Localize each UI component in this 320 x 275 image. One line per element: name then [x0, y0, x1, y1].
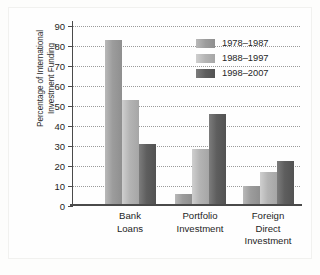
y-tick-label: 0: [60, 201, 65, 212]
y-tick-label: 30: [54, 141, 65, 152]
x-axis-label: ForeignDirectInvestment: [223, 210, 313, 248]
y-tick-label: 10: [54, 181, 65, 192]
y-tick-label: 90: [54, 21, 65, 32]
legend-label: 1988–1997: [222, 53, 269, 63]
legend-swatch: [196, 39, 215, 48]
bar: [209, 114, 226, 206]
x-axis-label-line: Investment: [223, 235, 313, 248]
bar: [122, 100, 139, 206]
legend-swatch: [196, 54, 215, 63]
x-axis-label-line: Foreign: [223, 210, 313, 223]
y-axis-title: Percentage of International Investment F…: [36, 0, 57, 169]
x-axis-line: [70, 204, 302, 206]
legend-swatch: [196, 69, 215, 78]
legend-label: 1998–2007: [222, 68, 269, 78]
y-tick-label: 40: [54, 121, 65, 132]
bar: [139, 144, 156, 206]
legend-item: 1988–1997: [196, 53, 269, 63]
bar: [260, 172, 277, 206]
bar: [243, 186, 260, 206]
y-tick-label: 20: [54, 161, 65, 172]
bar-group: [105, 26, 156, 206]
y-tick-label: 60: [54, 81, 65, 92]
y-tick-label: 70: [54, 61, 65, 72]
y-tick-label: 80: [54, 41, 65, 52]
legend-label: 1978–1987: [222, 38, 269, 48]
bar: [277, 161, 294, 206]
y-axis-title-line-1: Percentage of International: [36, 0, 47, 169]
y-tick-label: 50: [54, 101, 65, 112]
chart-figure: Percentage of International Investment F…: [0, 0, 320, 275]
x-axis-label-line: Direct: [223, 223, 313, 236]
y-axis-line: [72, 21, 73, 206]
legend-item: 1978–1987: [196, 38, 269, 48]
legend-item: 1998–2007: [196, 68, 269, 78]
bar: [105, 40, 122, 206]
y-tick-mark: [68, 206, 73, 207]
chart-legend: 1978–19871988–19971998–2007: [196, 38, 269, 78]
bar: [192, 149, 209, 206]
